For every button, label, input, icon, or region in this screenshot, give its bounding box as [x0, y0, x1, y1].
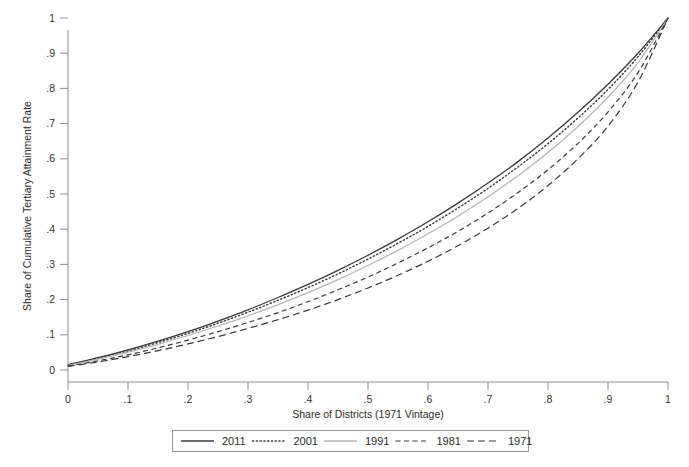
x-tick-label: .1: [124, 393, 133, 405]
series-group: [68, 18, 668, 366]
x-tick-label: .5: [364, 393, 373, 405]
y-tick-label: .6: [46, 152, 55, 164]
x-tick-label: .3: [244, 393, 253, 405]
legend-label-2011: 2011: [222, 435, 246, 447]
x-axis-title: Share of Districts (1971 Vintage): [292, 408, 444, 420]
x-tick-label: .2: [184, 393, 193, 405]
lorenz-curve-chart: 0.1.2.3.4.5.6.7.8.91 0.1.2.3.4.5.6.7.8.9…: [0, 0, 689, 467]
x-tick-label: .4: [304, 393, 313, 405]
y-tick-label: .4: [46, 223, 55, 235]
y-tick-label: .5: [46, 188, 55, 200]
y-axis-title: Share of Cumulative Tertiary Attainment …: [21, 101, 33, 311]
legend-label-1991: 1991: [365, 435, 389, 447]
x-tick-label: 1: [665, 393, 671, 405]
chart-svg: 0.1.2.3.4.5.6.7.8.91 0.1.2.3.4.5.6.7.8.9…: [0, 0, 689, 467]
series-line-1991: [68, 18, 668, 365]
y-axis-ticks: 0.1.2.3.4.5.6.7.8.91: [46, 12, 68, 376]
x-tick-label: .6: [424, 393, 433, 405]
y-tick-label: .8: [46, 82, 55, 94]
x-tick-label: .8: [544, 393, 553, 405]
y-tick-label: .2: [46, 293, 55, 305]
x-tick-label: 0: [65, 393, 71, 405]
x-tick-label: .9: [604, 393, 613, 405]
legend-label-2001: 2001: [294, 435, 318, 447]
series-line-2001: [68, 18, 668, 365]
y-tick-label: 1: [49, 12, 55, 24]
y-tick-label: .3: [46, 258, 55, 270]
y-tick-label: .7: [46, 117, 55, 129]
y-tick-label: .1: [46, 328, 55, 340]
series-line-1971: [68, 18, 668, 366]
y-tick-label: 0: [49, 364, 55, 376]
x-tick-label: .7: [484, 393, 493, 405]
series-line-1981: [68, 18, 668, 366]
legend-label-1981: 1981: [437, 435, 461, 447]
legend-label-1971: 1971: [508, 435, 532, 447]
y-tick-label: .9: [46, 47, 55, 59]
series-line-2011: [68, 18, 668, 365]
x-axis-ticks: 0.1.2.3.4.5.6.7.8.91: [65, 382, 671, 405]
